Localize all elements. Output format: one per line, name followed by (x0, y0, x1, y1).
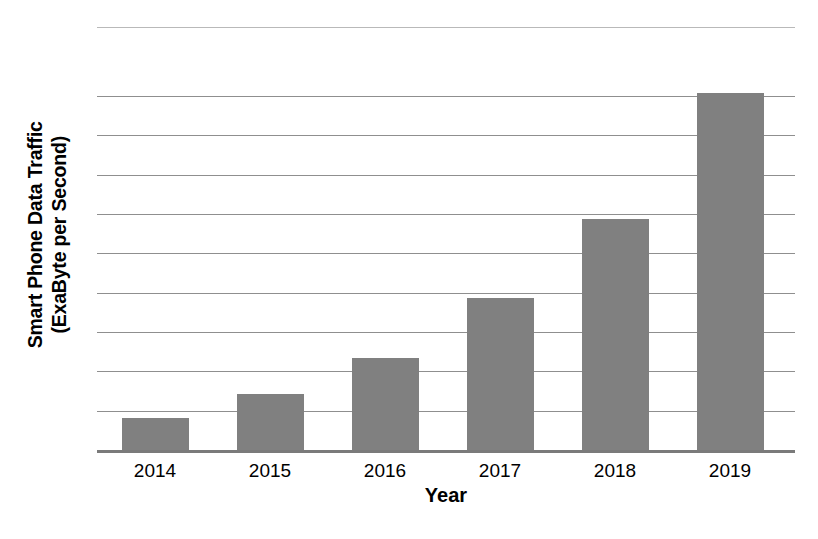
x-tick-label-2016: 2016 (328, 458, 443, 484)
bar-2014[interactable] (122, 418, 189, 451)
bar-2018[interactable] (582, 219, 649, 451)
bar-2017[interactable] (467, 298, 534, 451)
bar-2019[interactable] (697, 93, 764, 451)
x-tick-label-2017: 2017 (443, 458, 558, 484)
bar-2016[interactable] (352, 358, 419, 451)
x-axis-title: Year (97, 484, 795, 507)
x-tick-label-2019: 2019 (673, 458, 788, 484)
x-tick-label-2015: 2015 (213, 458, 328, 484)
plot-area (97, 27, 795, 453)
x-tick-label-2018: 2018 (558, 458, 673, 484)
y-axis-title-line2: (ExaByte per Second) (48, 121, 72, 348)
bars-layer (97, 27, 795, 453)
x-tick-label-2014: 2014 (98, 458, 213, 484)
y-axis-title-line1: Smart Phone Data Traffic (24, 121, 48, 348)
y-axis-title: Smart Phone Data Traffic (ExaByte per Se… (0, 0, 95, 470)
bar-chart-figure: Smart Phone Data Traffic (ExaByte per Se… (0, 0, 818, 539)
bar-2015[interactable] (237, 394, 304, 451)
x-axis-baseline (97, 450, 795, 453)
